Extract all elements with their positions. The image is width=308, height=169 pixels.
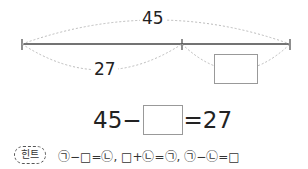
equation: 45− =27 [93, 104, 232, 136]
hint-badge: 힌트 [14, 146, 46, 164]
unknown-answer-box[interactable] [214, 54, 258, 84]
equation-left: 45− [93, 107, 142, 133]
total-label: 45 [140, 8, 166, 28]
part-label: 27 [92, 59, 118, 79]
hint-text: ㉠−□=㉡, □+㉡=㉠, ㉠−㉡=□ [58, 147, 240, 164]
equation-right: =27 [184, 107, 233, 133]
hint-row: 힌트 ㉠−□=㉡, □+㉡=㉠, ㉠−㉡=□ [14, 146, 240, 164]
equation-answer-box[interactable] [143, 105, 183, 135]
